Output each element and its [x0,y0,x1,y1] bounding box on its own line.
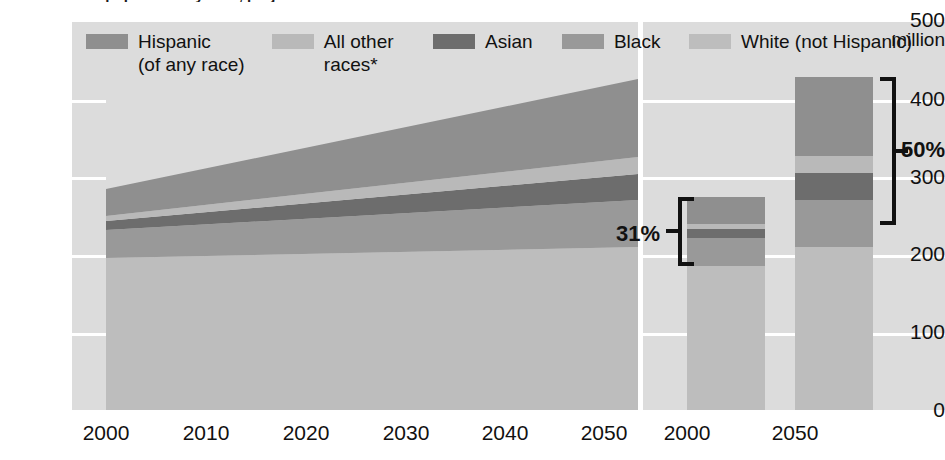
legend-swatch-white-not-hispanic-icon [689,34,731,49]
legend-label-hispanic: Hispanic (of any race) [138,30,245,76]
legend-item-all-other-races[interactable]: All other races* [272,30,433,76]
x-axis-tick-2040-area: 2040 [457,422,553,444]
legend-item-hispanic[interactable]: Hispanic (of any race) [86,30,272,76]
chart-title-fragment: U.S. population by race, projected [72,0,472,2]
y-axis-tick-400: 400 [879,88,945,109]
y-axis-tick-0: 0 [879,399,945,420]
gridline-100-left [72,333,106,336]
bar-2050-segment-white-not-hispanic [795,247,873,410]
y-axis-tick-500-value: 500 [910,8,945,31]
chart-legend: Hispanic (of any race) All other races* … [86,30,926,82]
bracket-2050-tick-bottom [880,221,896,225]
bracket-2000 [678,197,694,266]
legend-swatch-asian-icon [433,34,475,49]
legend-label-all-other-races: All other races* [324,30,394,76]
x-axis-tick-2050-area: 2050 [556,422,652,444]
stacked-bar-2000[interactable] [687,197,765,410]
x-axis-tick-2030-area: 2030 [358,422,454,444]
bar-2000-segment-asian [687,229,765,238]
legend-item-white-not-hispanic[interactable]: White (not Hispanic) [689,30,926,53]
gridline-200-left [72,255,106,258]
x-axis-tick-2000-bars: 2000 [639,422,735,444]
x-axis-tick-2050-bars: 2050 [747,422,843,444]
x-axis-tick-2010-area: 2010 [158,422,254,444]
bar-2000-segment-black [687,238,765,266]
bar-2000-segment-hispanic [687,197,765,224]
legend-swatch-all-other-races-icon [272,34,314,49]
legend-item-black[interactable]: Black [562,30,689,53]
bracket-2000-vline [678,197,682,266]
legend-swatch-hispanic-icon [86,34,128,49]
legend-label-black: Black [614,30,660,53]
y-axis-tick-300: 300 [879,166,945,187]
bar-2050-segment-asian [795,173,873,199]
bracket-2000-tick-bottom [678,262,694,266]
bar-2050-segment-all-other-races [795,156,873,173]
x-axis-tick-2000-area: 2000 [58,422,154,444]
bar-2000-segment-white-not-hispanic [687,266,765,410]
area-band-white-not-hispanic [106,247,638,410]
bracket-2000-tick-mid [666,229,678,233]
bar-2050-segment-hispanic [795,77,873,156]
chart-root: U.S. population by race, projected [0,0,945,460]
legend-swatch-black-icon [562,34,604,49]
bar-2050-segment-black [795,200,873,247]
x-axis-tick-2020-area: 2020 [258,422,354,444]
y-axis-tick-200: 200 [879,243,945,264]
y-axis-tick-100: 100 [879,321,945,342]
gridline-300-left [72,177,106,180]
gridline-400-left [72,100,106,103]
bracket-2000-tick-top [678,197,694,201]
stacked-bar-2050[interactable] [795,77,873,410]
legend-label-asian: Asian [485,30,533,53]
legend-item-asian[interactable]: Asian [433,30,562,53]
bar-2050-percent-label: 50% [901,137,945,163]
bar-2000-percent-label: 31% [616,221,660,247]
legend-label-white-not-hispanic: White (not Hispanic) [741,30,912,53]
